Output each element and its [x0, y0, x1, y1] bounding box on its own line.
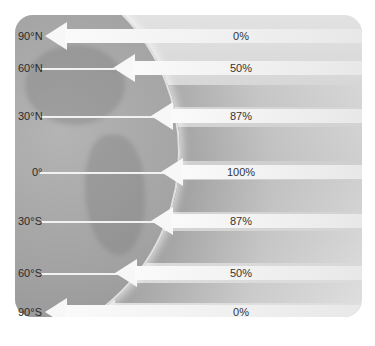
- percent-label-equator: 100%: [211, 165, 271, 179]
- latitude-label-30s: 30°S: [18, 215, 42, 227]
- sunlight-arrow-head: [151, 102, 173, 130]
- latitude-label-60n: 60°N: [18, 62, 43, 74]
- latitude-label-90s: 90°S: [18, 306, 42, 318]
- latitude-label-90n: 90°N: [18, 30, 43, 42]
- shade-band: [115, 283, 362, 303]
- latitude-line-30s: [40, 221, 155, 223]
- latitude-line-30n: [40, 116, 155, 118]
- shade-band: [163, 180, 362, 212]
- percent-label-30s: 87%: [211, 214, 271, 228]
- diagram-panel: 0% 50% 87% 100% 87% 50% 0%: [15, 15, 362, 317]
- latitude-label-60s: 60°S: [18, 267, 42, 279]
- percent-label-60n: 50%: [211, 61, 271, 75]
- sunlight-arrow-head: [115, 259, 137, 287]
- shade-band: [145, 231, 362, 263]
- percent-label-30n: 87%: [211, 109, 271, 123]
- latitude-line-equator: [40, 172, 165, 174]
- sunlight-arrow-head: [151, 207, 173, 235]
- sunlight-arrow-head: [45, 22, 67, 50]
- latitude-label-30n: 30°N: [18, 110, 43, 122]
- percent-label-90n: 0%: [211, 29, 271, 43]
- sunlight-arrow-head: [113, 54, 135, 82]
- latitude-label-equator: 0°: [32, 166, 43, 178]
- sunlight-arrow-head: [45, 298, 67, 317]
- sunlight-arrow-equator: [181, 165, 362, 179]
- sunlight-arrow-head: [161, 158, 183, 186]
- latitude-line-60n: [40, 68, 115, 70]
- percent-label-60s: 50%: [211, 266, 271, 280]
- latitude-line-60s: [40, 273, 120, 275]
- percent-label-90s: 0%: [211, 305, 271, 317]
- shade-band: [155, 127, 362, 161]
